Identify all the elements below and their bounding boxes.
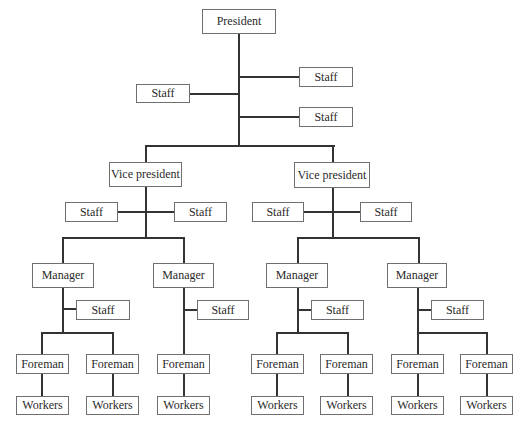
connector [486, 373, 488, 396]
node-foreman: Foreman [460, 354, 513, 374]
connector [276, 373, 278, 396]
connector [41, 332, 43, 354]
connector [112, 373, 114, 396]
node-vp-staff: Staff [65, 202, 118, 222]
connector [276, 332, 349, 334]
node-manager: Manager [387, 263, 447, 288]
connector [183, 237, 185, 263]
connector [118, 211, 174, 213]
connector [239, 116, 299, 118]
connector [190, 93, 239, 95]
connector [417, 332, 488, 334]
connector [112, 332, 114, 354]
node-president: President [202, 9, 276, 34]
connector [418, 237, 420, 263]
node-manager: Manager [32, 263, 94, 288]
connector [304, 211, 360, 213]
connector [183, 288, 185, 354]
org-chart: President Staff Staff Staff Vice preside… [0, 0, 529, 431]
node-foreman: Foreman [320, 354, 373, 374]
node-president-staff: Staff [136, 84, 190, 103]
node-manager: Manager [153, 263, 214, 288]
node-vp-staff: Staff [360, 202, 412, 222]
connector [62, 237, 64, 263]
connector [276, 332, 278, 354]
node-foreman: Foreman [86, 354, 139, 374]
connector [347, 373, 349, 396]
connector [417, 332, 419, 354]
node-workers: Workers [460, 396, 513, 415]
connector [297, 237, 299, 263]
connector [238, 33, 240, 147]
connector [332, 145, 334, 162]
connector [417, 373, 419, 396]
connector [145, 145, 335, 147]
node-workers: Workers [320, 396, 373, 415]
connector [183, 373, 185, 396]
node-workers: Workers [157, 396, 210, 415]
connector [486, 332, 488, 354]
node-vp-staff: Staff [252, 202, 304, 222]
node-vice-president: Vice president [294, 162, 370, 188]
node-vice-president: Vice president [109, 162, 182, 187]
node-vp-staff: Staff [174, 202, 227, 222]
connector [418, 309, 431, 311]
connector [41, 332, 114, 334]
node-foreman: Foreman [251, 354, 304, 374]
node-manager-staff: Staff [76, 300, 130, 320]
connector [62, 288, 64, 334]
node-president-staff: Staff [299, 67, 353, 87]
node-foreman: Foreman [391, 354, 444, 374]
connector [298, 309, 311, 311]
node-manager-staff: Staff [197, 300, 249, 320]
node-workers: Workers [391, 396, 444, 415]
node-workers: Workers [16, 396, 69, 415]
connector [145, 145, 147, 162]
node-workers: Workers [86, 396, 139, 415]
node-foreman: Foreman [157, 354, 210, 374]
connector [239, 76, 299, 78]
connector [332, 188, 334, 238]
node-foreman: Foreman [16, 354, 69, 374]
connector [297, 237, 420, 239]
connector [63, 308, 76, 310]
node-manager-staff: Staff [311, 300, 364, 320]
connector [184, 309, 197, 311]
node-manager: Manager [266, 263, 328, 288]
connector [417, 288, 419, 334]
connector [297, 288, 299, 334]
connector [41, 373, 43, 396]
node-workers: Workers [251, 396, 304, 415]
node-manager-staff: Staff [431, 300, 484, 320]
connector [347, 332, 349, 354]
connector [62, 237, 185, 239]
node-president-staff: Staff [299, 107, 353, 127]
